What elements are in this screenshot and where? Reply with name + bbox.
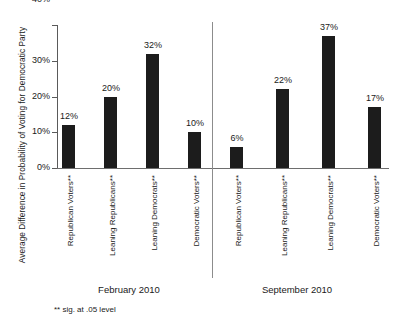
bar-value-g2-republican-voters: 6% xyxy=(214,133,260,143)
plot-area: 12% 20% 32% 10% 6% 22% 37% 17% xyxy=(57,25,389,168)
y-axis-title: Average Difference in Probability of Vot… xyxy=(17,0,27,290)
bar-g1-democratic-voters xyxy=(188,132,201,168)
bar-value-g1-leaning-republicans: 20% xyxy=(88,83,134,93)
x-category-label-g1-leaning-democrats: Leaning Democrats** xyxy=(150,175,159,251)
bar-g2-republican-voters xyxy=(230,147,243,168)
y-tick-0 xyxy=(52,168,57,169)
bar-g1-leaning-democrats xyxy=(146,54,159,168)
bar-g2-leaning-republicans xyxy=(276,89,289,168)
y-tick-30 xyxy=(52,61,57,62)
y-tick-label-10: 10% xyxy=(10,126,50,136)
y-tick-40 xyxy=(52,25,57,26)
x-axis-line xyxy=(57,168,389,169)
bar-value-g1-democratic-voters: 10% xyxy=(172,118,218,128)
x-category-label-g1-democratic-voters: Democratic Voters** xyxy=(192,175,201,247)
bar-g1-republican-voters xyxy=(62,125,75,168)
group-label-february-2010: February 2010 xyxy=(54,284,204,295)
y-tick-label-20: 20% xyxy=(10,91,50,101)
bar-value-g1-leaning-democrats: 32% xyxy=(130,40,176,50)
bar-value-g2-leaning-democrats: 37% xyxy=(306,22,352,32)
y-tick-10 xyxy=(52,132,57,133)
bar-g1-leaning-republicans xyxy=(104,97,117,169)
x-category-label-g2-republican-voters: Republican Voters** xyxy=(234,175,243,246)
significance-footnote: ** sig. at .05 level xyxy=(54,305,116,314)
x-category-label-g2-leaning-democrats: Leaning Democrats** xyxy=(326,175,335,251)
bar-g2-leaning-democrats xyxy=(322,36,335,168)
bar-value-g1-republican-voters: 12% xyxy=(46,111,92,121)
bar-chart: Average Difference in Probability of Vot… xyxy=(0,0,399,331)
x-category-label-g1-leaning-republicans: Leaning Republicans** xyxy=(108,175,117,256)
x-category-label-g2-leaning-republicans: Leaning Republicans** xyxy=(280,175,289,256)
bar-g2-democratic-voters xyxy=(368,107,381,168)
y-tick-label-0: 0% xyxy=(10,162,50,172)
bar-value-g2-leaning-republicans: 22% xyxy=(260,75,306,85)
x-category-label-g1-republican-voters: Republican Voters** xyxy=(66,175,75,246)
y-tick-20 xyxy=(52,97,57,98)
group-label-september-2010: September 2010 xyxy=(222,284,372,295)
y-tick-label-40: 40% xyxy=(10,0,50,4)
y-tick-label-30: 30% xyxy=(10,55,50,65)
bar-value-g2-democratic-voters: 17% xyxy=(352,93,398,103)
y-axis-line xyxy=(57,25,58,168)
group-divider xyxy=(212,22,213,278)
x-category-label-g2-democratic-voters: Democratic Voters** xyxy=(372,175,381,247)
